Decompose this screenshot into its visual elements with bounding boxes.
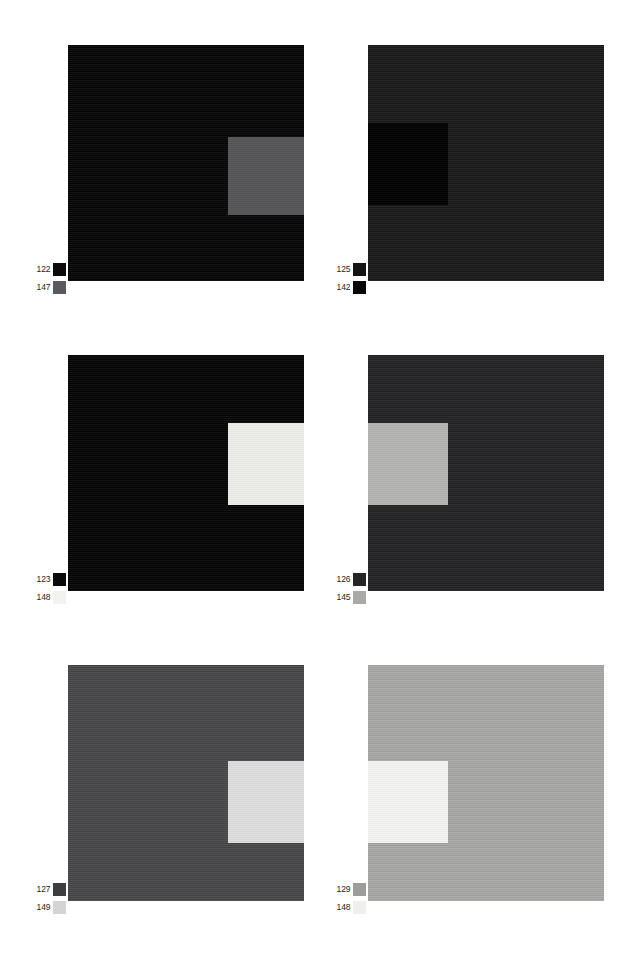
panel-image-2 bbox=[368, 45, 604, 281]
legend-entry: 148 bbox=[334, 900, 366, 915]
panel-inset-patch bbox=[228, 137, 304, 215]
panel-inset-patch bbox=[228, 761, 304, 843]
panel-image-1 bbox=[68, 45, 304, 281]
legend-color-swatch bbox=[353, 591, 366, 604]
panel-legend-2: 125142 bbox=[334, 262, 366, 298]
legend-entry-label: 149 bbox=[37, 903, 51, 912]
panel-2 bbox=[368, 45, 604, 281]
legend-color-swatch bbox=[53, 281, 66, 294]
inset-patch-fill bbox=[228, 423, 304, 505]
legend-entry-label: 147 bbox=[37, 283, 51, 292]
panel-inset-patch bbox=[368, 761, 448, 843]
panel-image-3 bbox=[68, 355, 304, 591]
panel-1 bbox=[68, 45, 304, 281]
panel-legend-6: 129148 bbox=[334, 882, 366, 918]
legend-entry: 145 bbox=[334, 590, 366, 605]
legend-entry-label: 148 bbox=[337, 903, 351, 912]
panel-5 bbox=[68, 665, 304, 901]
legend-color-swatch bbox=[353, 263, 366, 276]
inset-patch-fill bbox=[228, 761, 304, 843]
panel-image-4 bbox=[368, 355, 604, 591]
panel-legend-3: 123148 bbox=[34, 572, 66, 608]
legend-entry: 149 bbox=[34, 900, 66, 915]
legend-entry-label: 126 bbox=[337, 575, 351, 584]
legend-entry-label: 123 bbox=[37, 575, 51, 584]
legend-color-swatch bbox=[353, 883, 366, 896]
legend-entry: 148 bbox=[34, 590, 66, 605]
legend-entry-label: 125 bbox=[337, 265, 351, 274]
legend-color-swatch bbox=[353, 901, 366, 914]
figure-canvas: 122147125142123148126145127149129148 bbox=[0, 0, 622, 971]
panel-legend-4: 126145 bbox=[334, 572, 366, 608]
inset-patch-fill bbox=[228, 137, 304, 215]
legend-entry: 126 bbox=[334, 572, 366, 587]
panel-inset-patch bbox=[368, 423, 448, 505]
legend-entry: 127 bbox=[34, 882, 66, 897]
legend-color-swatch bbox=[53, 883, 66, 896]
legend-color-swatch bbox=[53, 263, 66, 276]
panel-3 bbox=[68, 355, 304, 591]
legend-entry: 129 bbox=[334, 882, 366, 897]
legend-color-swatch bbox=[353, 573, 366, 586]
legend-entry: 122 bbox=[34, 262, 66, 277]
legend-entry-label: 148 bbox=[37, 593, 51, 602]
panel-inset-patch bbox=[228, 423, 304, 505]
panel-4 bbox=[368, 355, 604, 591]
legend-entry-label: 127 bbox=[37, 885, 51, 894]
legend-entry-label: 129 bbox=[337, 885, 351, 894]
inset-patch-fill bbox=[368, 423, 448, 505]
panel-legend-1: 122147 bbox=[34, 262, 66, 298]
legend-color-swatch bbox=[53, 901, 66, 914]
inset-patch-fill bbox=[368, 123, 448, 205]
panel-6 bbox=[368, 665, 604, 901]
legend-entry: 123 bbox=[34, 572, 66, 587]
legend-entry-label: 142 bbox=[337, 283, 351, 292]
legend-color-swatch bbox=[353, 281, 366, 294]
legend-entry: 147 bbox=[34, 280, 66, 295]
legend-entry: 142 bbox=[334, 280, 366, 295]
panel-legend-5: 127149 bbox=[34, 882, 66, 918]
legend-color-swatch bbox=[53, 573, 66, 586]
legend-entry: 125 bbox=[334, 262, 366, 277]
legend-entry-label: 145 bbox=[337, 593, 351, 602]
legend-entry-label: 122 bbox=[37, 265, 51, 274]
panel-image-5 bbox=[68, 665, 304, 901]
legend-color-swatch bbox=[53, 591, 66, 604]
panel-image-6 bbox=[368, 665, 604, 901]
panel-inset-patch bbox=[368, 123, 448, 205]
inset-patch-fill bbox=[368, 761, 448, 843]
